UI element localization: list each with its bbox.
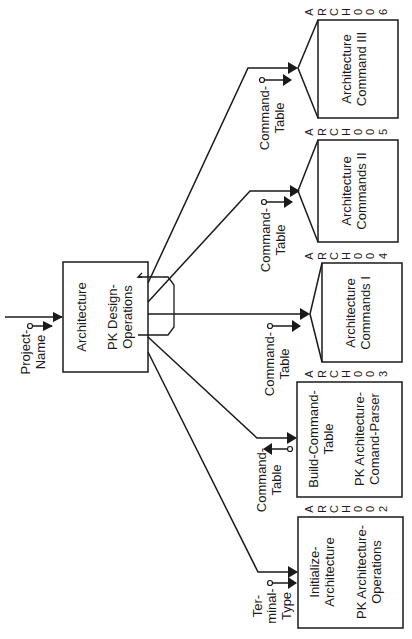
svg-text:C: C — [328, 370, 340, 378]
svg-text:H: H — [340, 370, 352, 378]
iteration-loop-icon — [138, 277, 174, 335]
module-arch006-title-2: Command III — [354, 32, 369, 106]
call-arrowheads — [287, 62, 310, 578]
command-table-couple-arch003: Command- Table — [254, 443, 293, 512]
module-arch003-title: Build-Command- — [306, 390, 321, 488]
main-module-title: Architecture — [74, 282, 89, 351]
svg-text:0: 0 — [364, 371, 376, 377]
svg-text:A: A — [303, 252, 315, 260]
svg-text:0: 0 — [364, 9, 376, 15]
module-arch002-package: PK Architecture- — [354, 525, 369, 619]
svg-text:A: A — [303, 505, 315, 513]
svg-text:0: 0 — [352, 9, 364, 15]
svg-text:0: 0 — [352, 371, 364, 377]
svg-text:0: 0 — [364, 129, 376, 135]
code-arch005: A R C H 0 0 5 — [303, 128, 389, 136]
svg-text:H: H — [340, 8, 352, 16]
svg-text:H: H — [340, 505, 352, 513]
module-arch004-title-2: Commands I — [358, 276, 373, 350]
svg-text:A: A — [303, 370, 315, 378]
code-arch004: A R C H 0 0 4 — [303, 252, 389, 260]
command-table-couple-arch005: Command- Table — [258, 196, 293, 272]
svg-text:Command-: Command- — [258, 208, 273, 272]
module-arch005-title: Architecture — [339, 156, 354, 225]
svg-text:R: R — [316, 505, 328, 513]
svg-text:Type: Type — [279, 592, 294, 620]
module-arch005-title-2: Commands II — [354, 152, 369, 229]
module-arch003-package: PK Architecture- — [352, 392, 367, 486]
svg-text:H: H — [340, 128, 352, 136]
project-name-label-2: Name — [33, 335, 48, 370]
svg-text:Ter-: Ter- — [250, 595, 265, 617]
main-module[interactable]: Architecture PK Design- Operations — [63, 262, 148, 372]
svg-text:2: 2 — [377, 506, 389, 512]
svg-text:R: R — [316, 252, 328, 260]
code-arch006: A R C H 0 0 6 — [303, 8, 389, 16]
svg-text:C: C — [328, 128, 340, 136]
module-arch003-title-2: Table — [321, 423, 336, 454]
main-module-package: PK Design- — [105, 284, 120, 350]
svg-text:0: 0 — [352, 253, 364, 259]
command-table-couple-arch006: Command- Table — [257, 74, 292, 150]
project-name-couple: Project- Name — [18, 324, 52, 375]
svg-text:Command-: Command- — [257, 86, 272, 150]
svg-text:R: R — [316, 370, 328, 378]
svg-text:6: 6 — [377, 9, 389, 15]
structure-chart: Architecture PK Design- Operations Proje… — [0, 0, 412, 639]
code-arch003: A R C H 0 0 3 — [303, 370, 389, 378]
module-arch003-package-2: Comand-Parser — [367, 392, 382, 484]
svg-text:Command-: Command- — [262, 332, 277, 396]
command-table-couple-arch004: Command- Table — [262, 320, 301, 396]
module-arch006[interactable]: Architecture Command III — [298, 20, 398, 118]
svg-text:0: 0 — [352, 129, 364, 135]
svg-text:Table: Table — [272, 102, 287, 133]
main-module-package-2: Operations — [120, 285, 135, 349]
svg-text:minal-: minal- — [264, 588, 279, 623]
svg-text:Table: Table — [273, 224, 288, 255]
svg-text:R: R — [316, 128, 328, 136]
svg-text:0: 0 — [364, 253, 376, 259]
module-arch005[interactable]: Architecture Commands II — [298, 140, 398, 242]
svg-text:Command-: Command- — [254, 448, 269, 512]
code-arch002: A R C H 0 0 2 — [303, 505, 389, 513]
svg-text:0: 0 — [364, 506, 376, 512]
module-arch002-title-2: Architecture — [322, 537, 337, 606]
svg-text:R: R — [316, 8, 328, 16]
svg-text:Table: Table — [277, 348, 292, 379]
module-arch004-title: Architecture — [343, 278, 358, 347]
module-arch004[interactable]: Architecture Commands I — [310, 263, 402, 362]
svg-text:C: C — [328, 252, 340, 260]
project-name-label: Project- — [18, 330, 33, 375]
terminal-type-couple-arch002: Ter- minal- Type — [250, 577, 297, 624]
svg-text:3: 3 — [377, 371, 389, 377]
svg-text:Table: Table — [269, 464, 284, 495]
svg-text:A: A — [303, 128, 315, 136]
svg-text:0: 0 — [352, 506, 364, 512]
svg-text:5: 5 — [377, 129, 389, 135]
svg-text:C: C — [328, 505, 340, 513]
module-arch003[interactable]: Build-Command- Table PK Architecture- Co… — [297, 382, 402, 497]
svg-text:A: A — [303, 8, 315, 16]
module-arch002-package-2: Operations — [369, 540, 384, 604]
svg-text:C: C — [328, 8, 340, 16]
svg-text:H: H — [340, 252, 352, 260]
svg-text:4: 4 — [377, 253, 389, 259]
module-arch002-title: Initialize- — [307, 546, 322, 597]
module-arch006-title: Architecture — [339, 34, 354, 103]
module-arch002[interactable]: Initialize- Architecture PK Architecture… — [298, 517, 403, 628]
